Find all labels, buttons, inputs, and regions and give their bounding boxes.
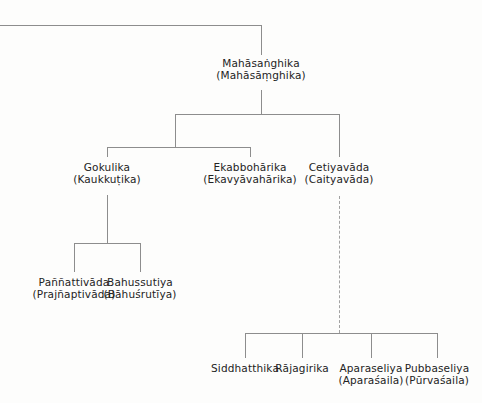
node-bahussutiya-pali: Bahussutiya [103, 276, 176, 288]
node-rajagirika: Rājagirika [275, 362, 329, 374]
connector-drop-pannattivada [74, 243, 75, 272]
node-gokulika-sanskrit: (Kaukkuṭika) [73, 173, 141, 185]
connector-root-stem [261, 90, 262, 114]
node-aparaseliya: Aparaseliya (Aparaśaila) [338, 362, 403, 387]
node-gokulika-pali: Gokulika [73, 161, 141, 173]
connector-cetiyavada-dashed-stem [339, 196, 340, 333]
node-ekabboharika-pali: Ekabbohārika [203, 161, 297, 173]
node-aparaseliya-pali: Aparaseliya [338, 362, 403, 374]
node-bahussutiya-sanskrit: (Bāhuśrutīya) [103, 288, 176, 300]
node-siddhatthika: Siddhatthika [211, 362, 279, 374]
connector-branch-bar-upper [175, 114, 339, 115]
connector-branch-bar-lower [107, 147, 250, 148]
node-mahasanghika: Mahāsaṅghika (Mahāsāṃghika) [216, 57, 306, 82]
sect-lineage-diagram: Mahāsaṅghika (Mahāsāṃghika) Gokulika (Ka… [0, 0, 482, 403]
node-siddhatthika-pali: Siddhatthika [211, 362, 279, 374]
connector-branch-bar-bottom [245, 333, 437, 334]
node-ekabboharika-sanskrit: (Ekavyāvahārika) [203, 173, 297, 185]
node-aparaseliya-sanskrit: (Aparaśaila) [338, 374, 403, 386]
connector-drop-rajagirika [302, 333, 303, 358]
node-pubbaseliya: Pubbaseliya (Pūrvaśaila) [405, 362, 470, 387]
connector-branch-bar-gokulika-children [74, 243, 140, 244]
node-ekabboharika: Ekabbohārika (Ekavyāvahārika) [203, 161, 297, 186]
node-mahasanghika-pali: Mahāsaṅghika [216, 57, 306, 69]
connector-drop-ekabboharika [250, 147, 251, 157]
node-rajagirika-pali: Rājagirika [275, 362, 329, 374]
node-pubbaseliya-sanskrit: (Pūrvaśaila) [405, 374, 470, 386]
node-pubbaseliya-pali: Pubbaseliya [405, 362, 470, 374]
node-cetiyavada: Cetiyavāda (Caityavāda) [304, 161, 373, 186]
connector-drop-bahussutiya [140, 243, 141, 272]
connector-gokulika-stem [107, 195, 108, 243]
connector-drop-aparaseliya [371, 333, 372, 358]
connector-drop-cetiyavada [339, 114, 340, 157]
connector-branch-upper-left-drop [175, 114, 176, 147]
connector-drop-siddhatthika [245, 333, 246, 358]
node-gokulika: Gokulika (Kaukkuṭika) [73, 161, 141, 186]
node-cetiyavada-pali: Cetiyavāda [304, 161, 373, 173]
node-mahasanghika-sanskrit: (Mahāsāṃghika) [216, 69, 306, 81]
connector-top-horizontal [0, 25, 261, 26]
node-bahussutiya: Bahussutiya (Bāhuśrutīya) [103, 276, 176, 301]
connector-top-vertical [261, 25, 262, 55]
connector-drop-pubbaseliya [437, 333, 438, 358]
connector-drop-gokulika [107, 147, 108, 157]
node-cetiyavada-sanskrit: (Caityavāda) [304, 173, 373, 185]
